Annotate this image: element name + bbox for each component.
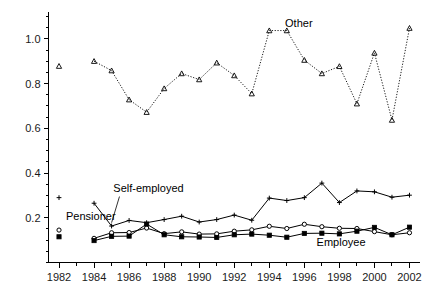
y-tick-label: 1.0 [25,33,40,45]
marker-circle [337,226,341,230]
marker-square [145,222,149,226]
marker-square [355,229,359,233]
y-tick-label: 0.4 [25,167,40,179]
marker-circle [372,230,376,234]
marker-square [302,231,306,235]
x-tick-label: 1982 [47,271,71,283]
marker-circle [285,226,289,230]
marker-square [390,233,394,237]
x-tick-label: 2002 [397,271,421,283]
series-line [94,28,409,120]
marker-triangle [56,64,61,69]
marker-triangle [214,60,219,65]
marker-square [92,238,96,242]
x-tick-label: 1994 [257,271,281,283]
y-tick-label: 0.2 [25,212,40,224]
series-other [56,26,412,123]
series-annotation-employee: Employee [317,236,366,248]
marker-square [180,235,184,239]
marker-square [250,232,254,236]
marker-square [372,225,376,229]
marker-circle [407,231,411,235]
x-tick-label: 1990 [187,271,211,283]
chart-container: 0.20.40.60.81.01982198419861988199019921… [0,0,430,298]
marker-square [127,234,131,238]
marker-triangle [232,73,237,78]
x-tick-label: 1984 [82,271,106,283]
marker-triangle [302,57,307,62]
x-tick-label: 1998 [327,271,351,283]
marker-triangle [249,91,254,96]
marker-triangle [407,26,412,31]
marker-circle [57,228,61,232]
marker-square [232,233,236,237]
y-tick-label: 0.8 [25,78,40,90]
marker-triangle [179,71,184,76]
y-tick-label: 0.6 [25,122,40,134]
x-tick-label: 1988 [152,271,176,283]
x-tick-label: 1992 [222,271,246,283]
marker-triangle [319,71,324,76]
marker-circle [320,225,324,229]
marker-square [197,235,201,239]
marker-circle [180,230,184,234]
series-annotation-self-employed: Self-employed [113,182,183,194]
x-tick-label: 2000 [362,271,386,283]
marker-circle [250,228,254,232]
series-annotation-pensioner: Pensioner [66,210,116,222]
marker-square [267,233,271,237]
marker-square [162,233,166,237]
marker-circle [145,226,149,230]
marker-square [285,235,289,239]
annotation-labels: OtherSelf-employedPensionerEmployee [66,17,366,248]
marker-triangle [144,110,149,115]
marker-square [215,235,219,239]
marker-square [320,231,324,235]
line-chart: 0.20.40.60.81.01982198419861988199019921… [0,0,430,298]
x-tick-label: 1996 [292,271,316,283]
marker-circle [267,224,271,228]
marker-square [57,235,61,239]
marker-triangle [91,59,96,64]
x-tick-label: 1986 [117,271,141,283]
marker-square [109,234,113,238]
marker-square [407,225,411,229]
series-annotation-other: Other [285,17,313,29]
marker-circle [302,222,306,226]
